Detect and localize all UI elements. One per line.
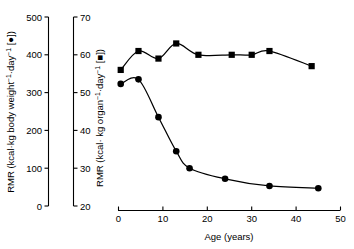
y-organ-title-main: RMR (kcal· kg organ	[94, 100, 105, 187]
y-organ-tick-60: 60	[80, 49, 91, 60]
y-axis-left-ticks	[45, 17, 49, 206]
y-organ-tick-20: 20	[80, 201, 91, 212]
y-left-title-end: [●])	[5, 31, 16, 48]
y-organ-title-end: [■])	[94, 49, 105, 66]
x-tick-50: 50	[335, 213, 346, 224]
data-point-square	[229, 52, 235, 58]
data-point-circle	[222, 175, 229, 182]
series-organ-points	[118, 40, 315, 73]
x-tick-10: 10	[158, 213, 169, 224]
x-tick-0: 0	[116, 213, 121, 224]
y-axis-organ: 70 60 50 40 30 20 RMR (kcal· kg organ−1·…	[74, 12, 106, 212]
series-bodyweight-points	[117, 76, 321, 191]
data-point-circle	[155, 114, 162, 121]
data-point-square	[155, 55, 161, 61]
y-left-tick-100: 100	[26, 163, 42, 174]
data-point-square	[118, 67, 124, 73]
y-left-tick-500: 500	[26, 12, 42, 23]
data-point-circle	[186, 165, 193, 172]
data-point-square	[173, 40, 179, 46]
data-point-square	[249, 52, 255, 58]
y-left-tick-0: 0	[37, 201, 42, 212]
data-point-circle	[117, 81, 124, 88]
x-tick-40: 40	[291, 213, 302, 224]
x-axis: 0 10 20 30 40 50 Age (years)	[116, 207, 346, 243]
data-point-circle	[173, 148, 180, 155]
y-organ-tick-50: 50	[80, 87, 91, 98]
y-axis-organ-title: RMR (kcal· kg organ−1·day−1 [■])	[94, 49, 106, 187]
figure-container: 500 400 300 200 100 0 RMR (kcal·kg body …	[0, 0, 354, 249]
series-bodyweight-trendline	[121, 78, 319, 189]
data-point-square	[135, 48, 141, 54]
y-left-title-main: RMR (kcal·kg body weight	[5, 82, 16, 193]
y-left-tick-300: 300	[26, 87, 42, 98]
y-organ-tick-30: 30	[80, 163, 91, 174]
data-point-circle	[266, 183, 273, 190]
y-left-title-mid: ·day	[5, 55, 16, 74]
data-point-circle	[315, 185, 322, 192]
y-left-tick-400: 400	[26, 49, 42, 60]
y-organ-tick-70: 70	[80, 12, 91, 23]
data-point-square	[266, 48, 272, 54]
x-axis-title: Age (years)	[204, 231, 253, 242]
y-organ-title-mid: ·day	[94, 73, 105, 92]
y-axis-left-title: RMR (kcal·kg body weight−1·day−1 [●])	[5, 31, 17, 193]
y-left-tick-200: 200	[26, 125, 42, 136]
y-axis-organ-ticks	[74, 17, 78, 206]
data-point-square	[309, 63, 315, 69]
x-tick-30: 30	[246, 213, 257, 224]
y-axis-left: 500 400 300 200 100 0 RMR (kcal·kg body …	[5, 12, 49, 212]
data-point-square	[195, 52, 201, 58]
rmr-vs-age-chart: 500 400 300 200 100 0 RMR (kcal·kg body …	[0, 0, 354, 249]
y-organ-tick-40: 40	[80, 125, 91, 136]
x-tick-20: 20	[202, 213, 213, 224]
x-axis-ticks	[119, 207, 341, 211]
series-organ-trendline	[121, 43, 312, 69]
data-point-circle	[135, 76, 142, 83]
